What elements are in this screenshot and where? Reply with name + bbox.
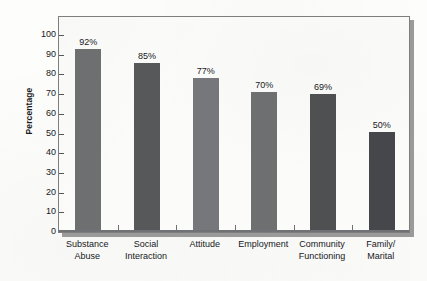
bar-value-label: 77% [197,67,215,76]
y-axis-tick-label: 10 [22,207,56,216]
category-label-line-2: Interaction [117,251,176,263]
y-axis-tick-label: 30 [22,167,56,176]
x-axis-category-label: CommunityFunctioning [293,239,352,262]
category-label-line-2: Functioning [293,251,352,263]
bar: 77% [193,78,219,230]
plot-frame: 92%85%77%70%69%50% [58,16,410,233]
bar: 92% [75,49,101,230]
x-axis-category-label: SocialInteraction [117,239,176,262]
y-axis-tick-mark [59,173,64,174]
y-axis-tick-mark [59,35,64,36]
y-axis-tick-mark [59,94,64,95]
y-axis-tick-mark [59,153,64,154]
bar-value-label: 69% [314,83,332,92]
y-axis-tick-mark [59,74,64,75]
x-axis-category-label: Attitude [175,239,234,251]
y-axis-tick-label: 0 [22,227,56,236]
bar: 69% [310,94,336,230]
y-axis-tick-label: 20 [22,187,56,196]
category-label-line-2: Marital [351,251,410,263]
y-axis-tick-label: 60 [22,108,56,117]
y-axis-tick-mark [59,114,64,115]
x-axis-category-label: Family/Marital [351,239,410,262]
y-axis-tick-label: 90 [22,49,56,58]
y-axis-tick-label: 80 [22,69,56,78]
y-axis-tick-mark [59,193,64,194]
y-axis-tick-label: 70 [22,89,56,98]
category-label-line-2: Abuse [58,251,117,263]
plot-area: 92%85%77%70%69%50% [59,17,409,232]
y-axis-tick-label: 100 [22,30,56,39]
bar: 70% [251,92,277,230]
category-label-line-1: Community [299,239,345,249]
x-axis-category-label: SubstanceAbuse [58,239,117,262]
bar: 50% [369,132,395,231]
x-axis-baseline [59,230,409,232]
x-axis-category-labels: SubstanceAbuseSocialInteractionAttitudeE… [58,239,410,279]
category-label-line-1: Substance [66,239,109,249]
y-axis-tick-label: 40 [22,148,56,157]
bar-value-label: 70% [255,81,273,90]
chart-page: Percentage 1009080706050403020100 92%85%… [0,0,427,281]
y-axis-tick-labels: 1009080706050403020100 [22,16,56,233]
category-label-line-1: Attitude [189,239,220,249]
x-axis-category-label: Employment [234,239,293,251]
category-label-line-1: Family/ [366,239,395,249]
category-label-line-1: Social [134,239,159,249]
category-label-line-1: Employment [238,239,288,249]
bar-value-label: 85% [138,52,156,61]
y-axis-tick-mark [59,212,64,213]
y-axis-tick-mark [59,134,64,135]
y-axis-tick-mark [59,55,64,56]
bar-value-label: 92% [79,38,97,47]
bar: 85% [134,63,160,230]
y-axis-tick-label: 50 [22,128,56,137]
bar-value-label: 50% [373,121,391,130]
